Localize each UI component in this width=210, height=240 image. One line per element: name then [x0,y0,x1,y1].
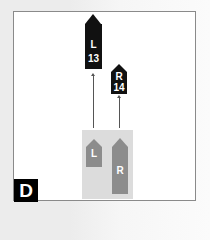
start-boat-right-label: R [112,165,128,177]
arrow-left-head [91,73,95,76]
bow-shape [86,139,102,147]
start-boat-left-label: L [86,148,102,160]
arrow-left [93,76,94,128]
final-boat-right: R 14 [111,64,127,94]
start-boat-left: L [86,139,102,167]
final-boat-left: L 13 [85,14,102,69]
arrow-right-head [117,95,121,98]
bow-shape [85,14,101,24]
final-boat-left-number: 13 [85,53,102,65]
bow-shape [112,138,128,147]
arrow-right [119,98,120,128]
final-boat-left-side: L [85,39,102,51]
final-boat-right-number: 14 [111,82,127,94]
start-boat-right: R [112,138,128,194]
panel-label-badge: D [14,179,38,202]
